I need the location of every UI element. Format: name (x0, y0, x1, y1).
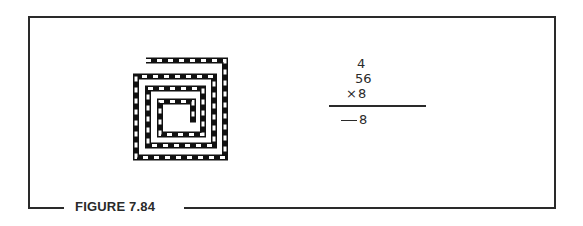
carry-digit: 4 (357, 57, 365, 70)
multiply-operator: × (346, 87, 357, 100)
spiral-track (136, 61, 225, 158)
multiplication-problem: 4 56 × 8 8 (320, 55, 435, 130)
frame-top-border (28, 16, 556, 18)
frame-bottom-border-right (184, 207, 556, 209)
product-rule (329, 105, 426, 107)
multiplicand: 56 (355, 72, 372, 85)
partial-answer-digit: 8 (359, 113, 367, 126)
answer-blank (341, 120, 357, 121)
frame-right-border (554, 16, 556, 209)
figure-caption: FIGURE 7.84 (75, 199, 155, 214)
frame-left-border (28, 16, 30, 209)
square-spiral-diagram (128, 52, 233, 167)
multiplier: 8 (358, 87, 366, 100)
frame-bottom-border-left (28, 207, 64, 209)
